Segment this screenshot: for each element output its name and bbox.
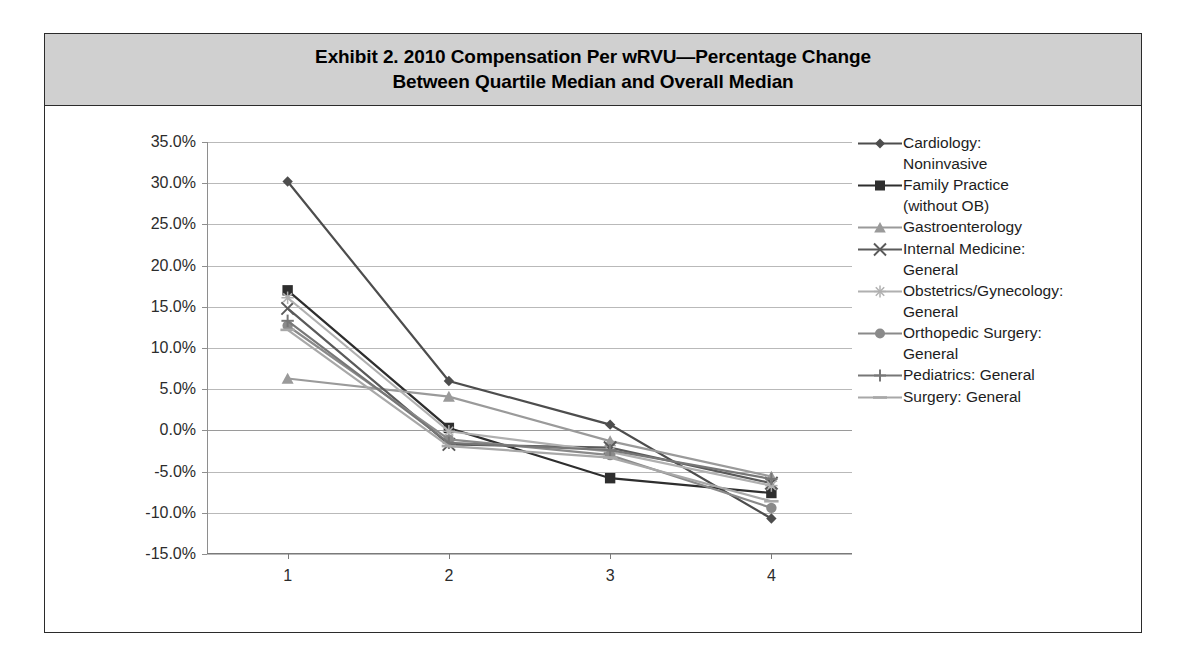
circle-marker xyxy=(766,503,776,513)
y-axis-tick-label: 25.0% xyxy=(151,215,196,233)
exhibit-figure-frame: Exhibit 2. 2010 Compensation Per wRVU—Pe… xyxy=(44,33,1142,633)
legend-item[interactable]: Pediatrics: General xyxy=(857,364,1137,386)
legend-label: Internal Medicine: General xyxy=(903,238,1025,280)
diamond-marker xyxy=(605,419,615,429)
x-axis-tick xyxy=(449,554,450,559)
legend-label: Family Practice (without OB) xyxy=(903,174,1009,216)
legend-label: Cardiology: Noninvasive xyxy=(903,132,987,174)
legend-item[interactable]: Obstetrics/Gynecology: General xyxy=(857,280,1137,322)
legend-swatch xyxy=(857,239,903,260)
legend-label: Obstetrics/Gynecology: General xyxy=(903,280,1063,322)
chart-title-line-2: Between Quartile Median and Overall Medi… xyxy=(392,70,793,94)
legend-swatch xyxy=(857,365,903,386)
chart-body: 35.0%30.0%25.0%20.0%15.0%10.0%5.0%0.0%-5… xyxy=(45,106,1141,633)
diamond-marker xyxy=(875,139,885,149)
series-line xyxy=(288,298,772,486)
legend-swatch xyxy=(857,175,903,196)
legend-item[interactable]: Orthopedic Surgery: General xyxy=(857,322,1137,364)
legend-item[interactable]: Family Practice (without OB) xyxy=(857,174,1137,216)
y-axis-tick-label: 0.0% xyxy=(160,421,196,439)
x-cross-marker xyxy=(281,302,293,314)
plot-area: 35.0%30.0%25.0%20.0%15.0%10.0%5.0%0.0%-5… xyxy=(207,142,852,554)
y-axis-tick-label: 10.0% xyxy=(151,339,196,357)
chart-title-band: Exhibit 2. 2010 Compensation Per wRVU—Pe… xyxy=(45,34,1141,106)
legend-item[interactable]: Surgery: General xyxy=(857,386,1137,408)
y-axis-tick-label: 35.0% xyxy=(151,133,196,151)
y-axis-tick-label: -15.0% xyxy=(145,545,196,563)
diamond-marker xyxy=(766,513,776,523)
square-marker xyxy=(605,473,615,483)
series-group xyxy=(281,315,777,486)
chart-legend: Cardiology: NoninvasiveFamily Practice (… xyxy=(857,132,1137,408)
series-group xyxy=(280,330,778,501)
series-lines-and-markers xyxy=(207,142,852,554)
y-axis-tick-label: 30.0% xyxy=(151,174,196,192)
x-axis-tick xyxy=(288,554,289,559)
x-axis-tick-label: 2 xyxy=(444,567,453,585)
x-axis-tick-label: 3 xyxy=(606,567,615,585)
legend-swatch xyxy=(857,133,903,154)
x-axis-tick xyxy=(610,554,611,559)
y-axis-tick-label: 15.0% xyxy=(151,298,196,316)
legend-label: Orthopedic Surgery: General xyxy=(903,322,1042,364)
legend-item[interactable]: Internal Medicine: General xyxy=(857,238,1137,280)
legend-swatch xyxy=(857,387,903,408)
chart-title-line-1: Exhibit 2. 2010 Compensation Per wRVU—Pe… xyxy=(315,45,871,69)
series-line xyxy=(288,321,772,479)
y-axis-tick-label: -10.0% xyxy=(145,504,196,522)
legend-item[interactable]: Cardiology: Noninvasive xyxy=(857,132,1137,174)
circle-marker xyxy=(875,329,885,339)
square-marker xyxy=(875,181,885,191)
y-axis-tick-label: 5.0% xyxy=(160,380,196,398)
legend-label: Pediatrics: General xyxy=(903,364,1035,385)
star-marker xyxy=(281,292,293,304)
legend-swatch xyxy=(857,323,903,344)
legend-label: Gastroenterology xyxy=(903,216,1022,237)
series-line xyxy=(288,308,772,483)
legend-swatch xyxy=(857,217,903,238)
legend-item[interactable]: Gastroenterology xyxy=(857,216,1137,238)
plus-marker xyxy=(874,370,886,382)
series-line xyxy=(288,290,772,493)
series-line xyxy=(288,378,772,476)
series-group xyxy=(282,373,778,482)
y-axis-tick-label: 20.0% xyxy=(151,257,196,275)
y-axis-tick xyxy=(202,554,207,555)
x-axis-tick xyxy=(771,554,772,559)
gridline xyxy=(207,554,852,555)
x-axis-tick-label: 4 xyxy=(767,567,776,585)
x-axis-tick-label: 1 xyxy=(283,567,292,585)
star-marker xyxy=(874,286,886,298)
legend-label: Surgery: General xyxy=(903,386,1021,407)
legend-swatch xyxy=(857,281,903,302)
y-axis-tick-label: -5.0% xyxy=(154,463,196,481)
